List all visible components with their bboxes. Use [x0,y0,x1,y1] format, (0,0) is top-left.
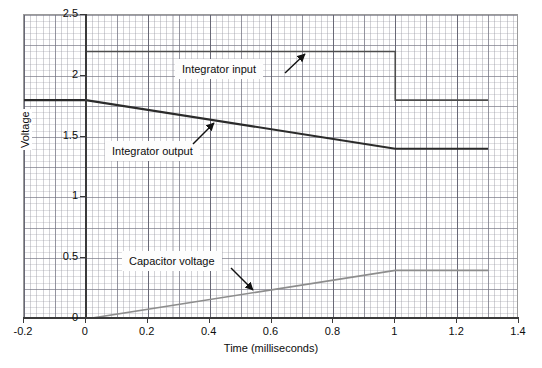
arrow-integrator-input [283,51,309,75]
x-tick-mark [23,318,24,323]
x-tick-mark [209,318,210,323]
y-tick-mark [80,14,86,15]
series-integrator-output [24,100,488,149]
y-tick-label: 2.5 [44,7,78,19]
y-tick-label: 0 [44,311,78,323]
y-tick-label: 1.5 [44,129,78,141]
y-tick-label: 0.5 [44,250,78,262]
y-tick-mark [80,136,86,137]
x-tick-mark [271,318,272,323]
callout-integrator-output: Integrator output [105,141,200,161]
x-tick-label: 0.6 [249,325,293,337]
x-tick-label: 0.8 [310,325,354,337]
x-tick-label: 0.2 [125,325,169,337]
x-tick-mark [456,318,457,323]
chart-figure: -0.200.20.40.60.811.21.4 00.511.522.5 Ti… [0,0,542,368]
data-curves [24,15,518,318]
arrow-integrator-output [191,120,219,146]
x-tick-label: 1 [372,325,416,337]
y-tick-label: 1 [44,189,78,201]
x-axis-title: Time (milliseconds) [0,342,542,354]
x-tick-label: 0 [63,325,107,337]
y-tick-mark [80,318,86,319]
callout-integrator-input: Integrator input [175,59,263,79]
x-tick-label: 0.4 [187,325,231,337]
x-tick-mark [394,318,395,323]
y-axis-title: Voltage [18,109,32,150]
y-tick-mark [80,196,86,197]
x-tick-mark [518,318,519,323]
y-tick-label: 2 [44,68,78,80]
y-axis-line [85,14,87,319]
callout-capacitor-voltage: Capacitor voltage [122,251,222,271]
x-tick-mark [147,318,148,323]
x-tick-label: 1.4 [496,325,540,337]
y-tick-mark [80,75,86,76]
x-tick-label: 1.2 [434,325,478,337]
plot-area [23,14,518,318]
y-tick-mark [80,257,86,258]
x-tick-label: -0.2 [1,325,45,337]
x-tick-mark [332,318,333,323]
arrow-capacitor-voltage [229,266,259,294]
